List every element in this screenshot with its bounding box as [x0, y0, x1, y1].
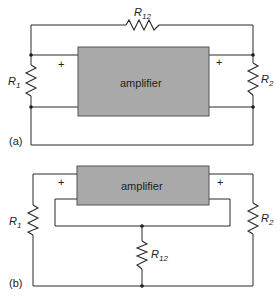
- amplifier-label-b: amplifier: [121, 180, 163, 192]
- label-r12-b: R12: [151, 248, 168, 263]
- circuit-diagram: R12 R1 R2 amplifier + + (a) amplifier: [0, 0, 280, 299]
- label-r1-b: R1: [9, 215, 21, 230]
- panel-label-b: (b): [9, 277, 22, 289]
- resistor-r2-a: [248, 63, 258, 95]
- plus-input-b: +: [58, 176, 64, 188]
- amplifier-label-a: amplifier: [120, 77, 162, 89]
- panel-label-a: (a): [9, 135, 22, 147]
- node: [29, 53, 33, 57]
- plus-output-a: +: [216, 56, 222, 68]
- label-r2-b: R2: [261, 212, 274, 227]
- resistor-r12-a: [126, 20, 159, 30]
- node: [29, 105, 33, 109]
- label-r12-a: R12: [134, 6, 151, 21]
- node: [140, 224, 144, 228]
- resistor-r1-a: [26, 65, 36, 96]
- label-r2-a: R2: [261, 73, 274, 88]
- node: [251, 53, 255, 57]
- node: [251, 105, 255, 109]
- node: [140, 284, 144, 288]
- resistor-r12-b: [137, 241, 147, 269]
- circuit-a: R12 R1 R2 amplifier + + (a): [8, 6, 274, 147]
- circuit-b: amplifier R1 R2 R12 + + (b): [9, 166, 274, 289]
- plus-input-a: +: [58, 58, 64, 70]
- resistor-r2-b: [248, 203, 258, 234]
- plus-output-b: +: [217, 176, 223, 188]
- resistor-r1-b: [28, 205, 38, 235]
- label-r1-a: R1: [8, 75, 20, 90]
